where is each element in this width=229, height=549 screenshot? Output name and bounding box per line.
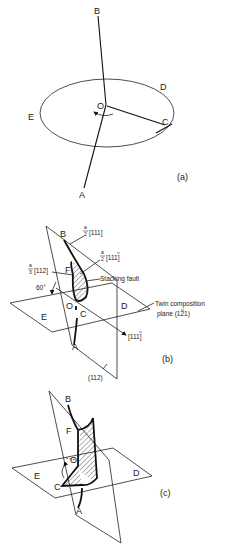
point-a-label: A	[72, 342, 78, 352]
svg-text:plane (121): plane (121)	[157, 310, 190, 318]
svg-text:a: a	[101, 249, 104, 255]
point-b-label: B	[65, 394, 71, 404]
svg-text:[111]: [111]	[89, 229, 103, 237]
leader-a2-111	[70, 236, 84, 244]
point-c-label: C	[80, 309, 87, 319]
angle-arc-c	[62, 466, 64, 478]
point-a-label: A	[76, 506, 82, 516]
point-a-label: A	[79, 190, 85, 200]
point-e-label: E	[34, 471, 40, 481]
point-f-label: F	[66, 426, 72, 436]
direction-111bar-arrow	[56, 288, 126, 335]
leader-a2-11bar1	[80, 260, 100, 274]
angle-arc	[52, 282, 56, 294]
panel-c: B F O E D C A (c)	[12, 391, 171, 543]
point-c-label: C	[162, 117, 169, 127]
dislocation-line-oa	[74, 306, 77, 345]
panel-a: B O D E C A (a)	[28, 6, 188, 200]
line-oa	[84, 105, 106, 188]
svg-text:[112]: [112]	[34, 267, 48, 275]
line-ob	[98, 16, 106, 105]
point-b-label: B	[94, 6, 100, 16]
svg-text:a: a	[29, 262, 32, 268]
twin-plane-label-line1: Twin composition	[155, 300, 205, 308]
point-d-label: D	[160, 82, 167, 92]
stacking-fault-label: Stacking fault	[100, 275, 139, 283]
burgers-a2-111-label: a 2 [111]	[83, 224, 103, 237]
leader-plane-112	[103, 364, 107, 369]
panel-b: B F O C E D A a 2 [111] a 2 [111] a 3 [1…	[10, 224, 205, 382]
point-o-label: O	[97, 101, 104, 111]
leader-stacking-fault	[86, 279, 100, 281]
panel-b-caption: (b)	[162, 354, 173, 364]
direction-111bar-label: [111]	[128, 332, 142, 341]
svg-text:2: 2	[101, 256, 104, 262]
point-e-label: E	[41, 312, 47, 322]
point-o-label: O	[66, 301, 73, 311]
point-d-label: D	[121, 301, 128, 311]
plane-112	[46, 226, 117, 379]
slip-plane-ellipse	[40, 79, 174, 147]
point-d-label: D	[133, 468, 140, 478]
twin-formation-diagram: B O D E C A (a) B F O C E D A	[0, 0, 229, 549]
svg-text:[111]: [111]	[128, 333, 142, 341]
point-o-label: O	[70, 455, 77, 465]
plane-112-label: (112)	[88, 374, 103, 382]
line-oc	[107, 106, 165, 125]
point-e-label: E	[28, 112, 34, 122]
burgers-a2-11bar1-label: a 2 [111]	[100, 249, 120, 262]
point-f-label: F	[65, 265, 71, 275]
shockley-a3-112-label: a 3 [112]	[28, 262, 48, 275]
svg-text:[111]: [111]	[106, 254, 120, 262]
svg-text:2: 2	[84, 231, 87, 237]
point-c-label: C	[54, 482, 61, 492]
panel-c-caption: (c)	[160, 488, 171, 498]
svg-text:3: 3	[29, 269, 32, 275]
svg-text:a: a	[84, 224, 87, 230]
twin-plane-label-line2: plane (121)	[157, 310, 190, 318]
point-b-label: B	[60, 229, 66, 239]
angle-60-label: 60°	[36, 284, 46, 291]
panel-a-caption: (a)	[177, 172, 188, 182]
dislocation-line-ca	[78, 488, 82, 508]
